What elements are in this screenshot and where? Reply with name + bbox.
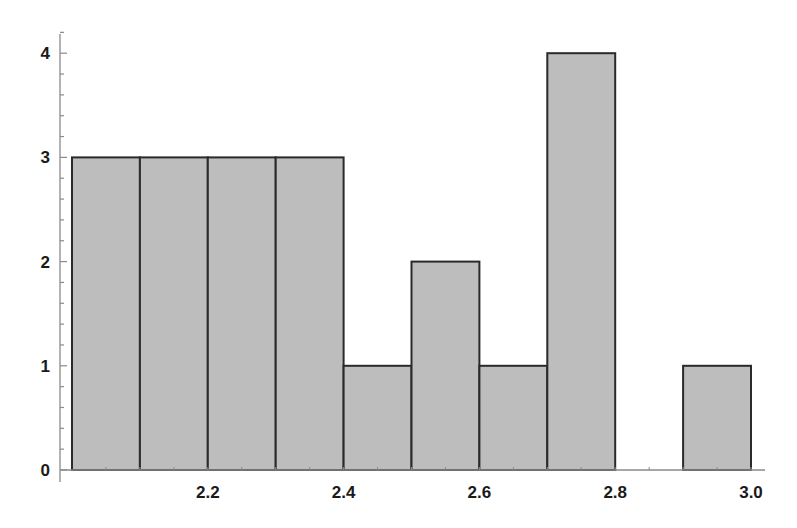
y-tick-label: 3: [41, 148, 50, 167]
x-tick-label: 3.0: [739, 483, 763, 502]
histogram-bar: [683, 366, 751, 470]
histogram-bar: [344, 366, 412, 470]
histogram-bar: [547, 53, 615, 470]
y-tick-label: 1: [41, 357, 50, 376]
y-tick-label: 2: [41, 253, 50, 272]
x-tick-label: 2.8: [603, 483, 627, 502]
histogram-bar: [72, 157, 140, 470]
histogram-bar: [412, 262, 480, 470]
x-tick-label: 2.2: [196, 483, 220, 502]
histogram-bars: [72, 53, 751, 470]
y-axis-ticks: 01234: [41, 32, 67, 480]
histogram-bar: [276, 157, 344, 470]
x-axis-ticks: 2.22.42.62.83.0: [106, 467, 763, 502]
histogram-chart: 2.22.42.62.83.0 01234: [0, 0, 797, 528]
histogram-bar: [140, 157, 208, 470]
histogram-bar: [208, 157, 276, 470]
y-tick-label: 4: [41, 44, 51, 63]
y-tick-label: 0: [41, 461, 50, 480]
x-tick-label: 2.6: [468, 483, 492, 502]
x-tick-label: 2.4: [332, 483, 356, 502]
histogram-bar: [479, 366, 547, 470]
